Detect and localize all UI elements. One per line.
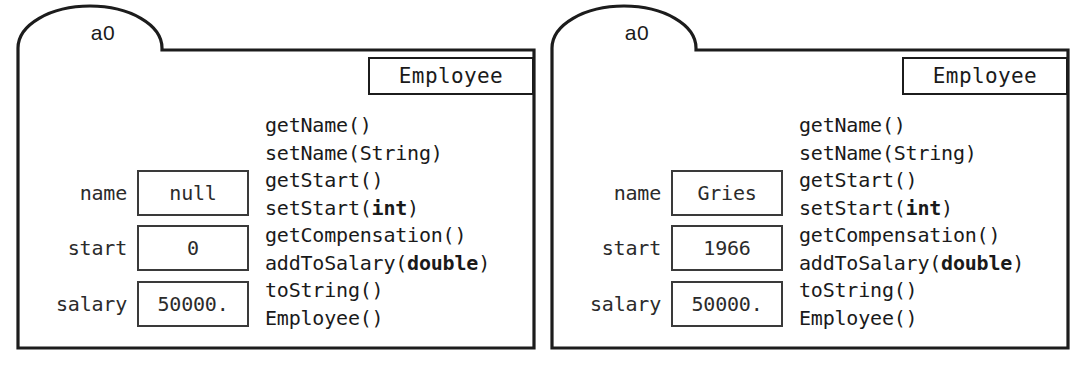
method-line: setStart(int)	[265, 195, 540, 223]
method-list: getName() setName(String) getStart() set…	[265, 112, 540, 332]
object-panel-1: a0 Employee getName() setName(String) ge…	[549, 0, 1071, 370]
field-label: salary	[559, 292, 671, 316]
method-line: setStart(int)	[799, 195, 1074, 223]
method-line: getCompensation()	[799, 222, 1074, 250]
instance-name-label: a0	[63, 22, 143, 44]
field-value-box: 50000.	[137, 281, 249, 327]
class-header-box: Employee	[902, 57, 1068, 95]
field-value-box: Gries	[671, 170, 783, 216]
field-row: salary 50000.	[559, 281, 799, 327]
method-list: getName() setName(String) getStart() set…	[799, 112, 1074, 332]
field-value: Gries	[697, 181, 756, 205]
field-value: 0	[187, 236, 199, 260]
method-line: getStart()	[265, 167, 540, 195]
field-label: name	[25, 181, 137, 205]
field-value-box: 0	[137, 225, 249, 271]
field-value-box: 50000.	[671, 281, 783, 327]
method-line: Employee()	[265, 305, 540, 333]
field-row: start 0	[25, 225, 265, 271]
method-line: addToSalary(double)	[265, 250, 540, 278]
method-line: Employee()	[799, 305, 1074, 333]
field-label: start	[559, 236, 671, 260]
method-line: setName(String)	[265, 140, 540, 168]
field-value: 1966	[703, 236, 750, 260]
method-line: getStart()	[799, 167, 1074, 195]
field-label: start	[25, 236, 137, 260]
method-line: getCompensation()	[265, 222, 540, 250]
method-line: toString()	[265, 277, 540, 305]
field-value: 50000.	[691, 292, 762, 316]
method-line: getName()	[799, 112, 1074, 140]
object-diagram-canvas: a0 Employee getName() setName(String) ge…	[0, 0, 1082, 370]
field-row: name null	[25, 170, 265, 216]
field-label: name	[559, 181, 671, 205]
class-name-label: Employee	[933, 64, 1037, 88]
field-row: start 1966	[559, 225, 799, 271]
object-panel-0: a0 Employee getName() setName(String) ge…	[15, 0, 537, 370]
field-value: 50000.	[157, 292, 228, 316]
class-name-label: Employee	[399, 64, 503, 88]
field-value-box: null	[137, 170, 249, 216]
field-value: null	[169, 181, 216, 205]
method-line: addToSalary(double)	[799, 250, 1074, 278]
field-value-box: 1966	[671, 225, 783, 271]
method-line: getName()	[265, 112, 540, 140]
class-header-box: Employee	[368, 57, 534, 95]
method-line: setName(String)	[799, 140, 1074, 168]
method-line: toString()	[799, 277, 1074, 305]
instance-name-label: a0	[597, 22, 677, 44]
field-label: salary	[25, 292, 137, 316]
field-row: salary 50000.	[25, 281, 265, 327]
field-row: name Gries	[559, 170, 799, 216]
